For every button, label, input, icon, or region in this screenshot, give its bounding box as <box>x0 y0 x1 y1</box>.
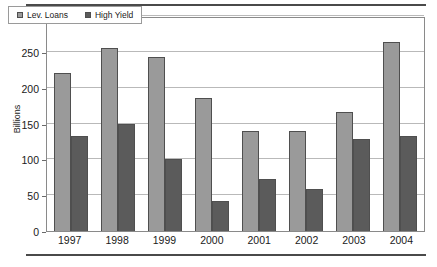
legend-item-0: Lev. Loans <box>17 10 68 20</box>
x-tick-label: 1998 <box>96 234 138 250</box>
bar-2003-series-1 <box>353 139 370 231</box>
legend-label: High Yield <box>95 10 133 20</box>
y-tick-label: 250 <box>0 47 46 59</box>
bar-group <box>54 18 88 231</box>
bar-2004-series-0 <box>383 42 400 231</box>
bar-group <box>195 18 229 231</box>
bar-group <box>336 18 370 231</box>
x-axis-labels: 19971998199920002001200220032004 <box>46 234 425 250</box>
bar-1997-series-1 <box>71 136 88 231</box>
bar-2002-series-1 <box>306 189 323 231</box>
x-tick-label: 2004 <box>380 234 422 250</box>
x-tick-label: 1997 <box>49 234 91 250</box>
bar-groups <box>47 18 424 231</box>
bar-group <box>148 18 182 231</box>
y-tick-mark <box>42 160 46 161</box>
y-tick-mark <box>42 53 46 54</box>
bar-group <box>383 18 417 231</box>
legend-swatch-icon <box>85 12 91 18</box>
bar-group <box>289 18 323 231</box>
bar-1998-series-0 <box>101 48 118 231</box>
bar-2001-series-0 <box>242 131 259 231</box>
plot-area <box>46 17 425 232</box>
chart-legend: Lev. LoansHigh Yield <box>8 6 142 24</box>
y-tick-label: 200 <box>0 83 46 95</box>
x-tick-label: 2001 <box>238 234 280 250</box>
legend-item-1: High Yield <box>85 10 133 20</box>
y-tick-label: 150 <box>0 119 46 131</box>
y-tick-mark <box>42 232 46 233</box>
x-tick-label: 1999 <box>143 234 185 250</box>
bar-2001-series-1 <box>259 179 276 231</box>
legend-label: Lev. Loans <box>27 10 68 20</box>
chart-figure: Billions 050100150200250300 199719981999… <box>0 0 437 267</box>
bar-1999-series-1 <box>165 159 182 231</box>
bar-2000-series-0 <box>195 98 212 231</box>
bottom-divider-rule <box>26 254 426 256</box>
legend-swatch-icon <box>17 12 23 18</box>
bar-1998-series-1 <box>118 124 135 231</box>
y-tick-label: 100 <box>0 154 46 166</box>
y-tick-label: 50 <box>0 190 46 202</box>
y-tick-mark <box>42 89 46 90</box>
y-tick-mark <box>42 196 46 197</box>
bar-1997-series-0 <box>54 73 71 231</box>
bar-group <box>101 18 135 231</box>
bar-2004-series-1 <box>400 136 417 231</box>
x-tick-label: 2002 <box>286 234 328 250</box>
bar-2000-series-1 <box>212 201 229 231</box>
bar-2002-series-0 <box>289 131 306 231</box>
y-tick-mark <box>42 125 46 126</box>
x-tick-label: 2003 <box>333 234 375 250</box>
bar-1999-series-0 <box>148 57 165 231</box>
bar-2003-series-0 <box>336 112 353 231</box>
y-tick-label: 0 <box>0 226 46 238</box>
x-tick-label: 2000 <box>191 234 233 250</box>
bar-group <box>242 18 276 231</box>
